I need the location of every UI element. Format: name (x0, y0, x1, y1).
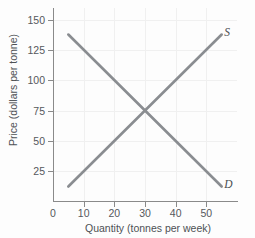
x-tick-label: 20 (99, 207, 129, 219)
y-tick-label-text: 50 (33, 135, 45, 147)
y-tick-label-text: 125 (27, 44, 45, 56)
y-axis-tick (48, 20, 53, 21)
gridline-vertical (84, 8, 85, 201)
gridline-horizontal (53, 80, 237, 81)
plot-area (53, 8, 237, 201)
y-tick-label-text: 150 (27, 14, 45, 26)
y-tick-label-text: 100 (27, 74, 45, 86)
y-axis-tick (48, 111, 53, 112)
y-axis-line (53, 8, 54, 202)
y-axis-tick (48, 50, 53, 51)
x-tick-label: 40 (161, 207, 191, 219)
gridline-horizontal (53, 50, 237, 51)
gridline-vertical (114, 8, 115, 201)
gridline-horizontal (53, 111, 237, 112)
y-tick-label-text: 25 (33, 165, 45, 177)
y-axis-tick (48, 141, 53, 142)
x-axis-title: Quantity (tonnes per week) (53, 222, 243, 234)
gridline-vertical (145, 8, 146, 201)
y-axis-tick (48, 171, 53, 172)
gridline-horizontal (53, 141, 237, 142)
y-axis-tick (48, 80, 53, 81)
gridline-vertical (206, 8, 207, 201)
gridline-horizontal (53, 20, 237, 21)
demand-curve-label: D (224, 178, 232, 190)
gridline-horizontal (53, 171, 237, 172)
supply-curve-label: S (224, 26, 230, 38)
supply-demand-chart-figure: 255075100125150 01020304050 Price (dolla… (0, 0, 255, 238)
y-axis-title: Price (dollars per tonne) (7, 5, 19, 175)
gridline-vertical (176, 8, 177, 201)
x-tick-label: 0 (38, 207, 68, 219)
y-tick-label-text: 75 (33, 105, 45, 117)
x-tick-label: 10 (69, 207, 99, 219)
x-tick-label: 30 (130, 207, 160, 219)
x-tick-label: 50 (191, 207, 221, 219)
